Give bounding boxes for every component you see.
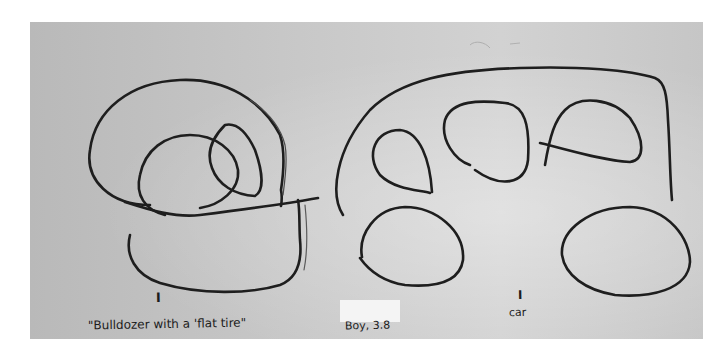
drawing-strokes <box>30 22 703 339</box>
car-marker: I <box>518 288 523 302</box>
subject-label: Boy, 3.8 <box>345 319 391 333</box>
car-window-right <box>540 101 641 165</box>
car-wheel-rear <box>562 207 690 296</box>
car-caption: car <box>509 306 527 319</box>
bulldozer-marker: I <box>156 290 161 305</box>
car-window-left <box>373 130 432 193</box>
bulldozer-caption: "Bulldozer with a 'flat tire" <box>88 316 246 333</box>
bulldozer-cab-outline <box>89 80 283 206</box>
bulldozer-inner-loop-left <box>139 135 238 215</box>
car-wheel-front <box>360 207 463 286</box>
car-window-middle <box>444 102 528 182</box>
drawing-photo <box>30 22 703 339</box>
car-body-outline <box>336 67 672 215</box>
